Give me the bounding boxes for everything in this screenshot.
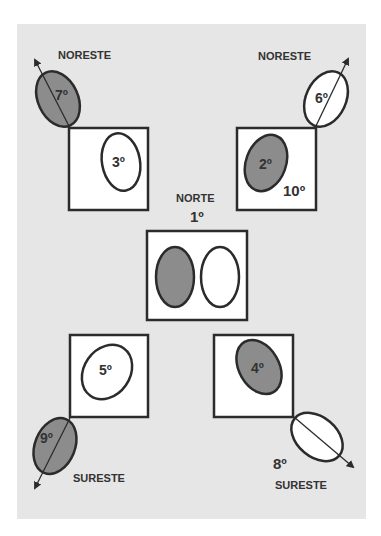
- label-norte: NORTE: [176, 192, 215, 204]
- label-4: 4º: [251, 360, 264, 376]
- diagram-canvas: NORESTE 7º 3º NORESTE 6º 2º 10º NORTE 1º…: [0, 0, 381, 536]
- label-10: 10º: [283, 182, 306, 199]
- label-2: 2º: [259, 156, 272, 172]
- label-6: 6º: [315, 90, 328, 106]
- label-5: 5º: [99, 362, 112, 378]
- label-noreste-top-left: NORESTE: [58, 49, 111, 61]
- label-7: 7º: [55, 87, 68, 103]
- label-sureste-bottom-right: SURESTE: [275, 479, 327, 491]
- ellipse-1-filled: [156, 247, 194, 307]
- label-3: 3º: [112, 154, 125, 170]
- label-noreste-top-right: NORESTE: [258, 50, 311, 62]
- label-9: 9º: [40, 430, 53, 446]
- ellipse-1-empty: [201, 247, 239, 307]
- label-1: 1º: [190, 208, 204, 225]
- label-8: 8º: [273, 455, 287, 472]
- label-sureste-bottom-left: SURESTE: [73, 472, 125, 484]
